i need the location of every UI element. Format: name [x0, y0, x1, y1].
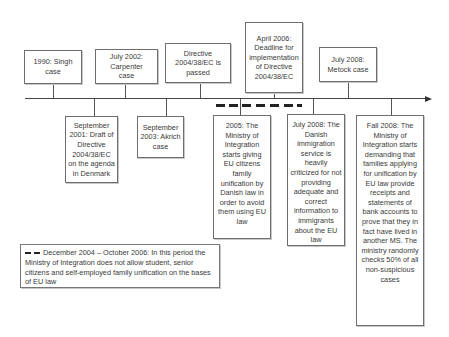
connector	[200, 82, 201, 98]
connector	[166, 99, 167, 116]
period-dash	[229, 104, 238, 107]
connector	[94, 99, 95, 116]
connector	[125, 83, 126, 98]
event-label: Fall 2008: The Ministry of Integration s…	[359, 121, 421, 284]
legend-text: December 2004 – October 2006: In this pe…	[25, 248, 211, 286]
event-label: Directive 2004/38/EC is passed	[168, 49, 228, 78]
dash-key-icon	[34, 252, 40, 254]
event-ministry-2005: 2005: The Ministry of Integration starts…	[213, 115, 271, 239]
connector	[240, 99, 241, 115]
event-label: July 2008: Metock case	[322, 55, 374, 74]
event-label: 2005: The Ministry of Integration starts…	[216, 121, 268, 227]
period-dash	[216, 104, 225, 107]
event-label: July 2002: Carpenter case	[98, 52, 155, 81]
event-label: April 2006: Deadline for implementation …	[248, 34, 300, 82]
period-legend: December 2004 – October 2006: In this pe…	[20, 244, 220, 288]
connector	[391, 99, 392, 115]
event-label: 1990: Singh case	[27, 57, 79, 76]
connector	[53, 83, 54, 98]
event-draft: September 2001: Draft of Directive 2004/…	[65, 116, 118, 183]
dash-key-icon	[25, 252, 31, 254]
period-dash	[297, 104, 302, 107]
connector	[348, 81, 349, 98]
period-dash	[284, 104, 293, 107]
period-dash	[242, 104, 251, 107]
event-label: September 2001: Draft of Directive 2004/…	[68, 121, 115, 179]
timeline-axis	[25, 98, 427, 99]
arrowhead-icon	[425, 96, 432, 102]
period-dash	[270, 104, 279, 107]
event-akrich: September 2003: Akrich case	[137, 116, 184, 158]
event-deadline: April 2006: Deadline for implementation …	[245, 22, 303, 93]
event-fall-2008: Fall 2008: The Ministry of Integration s…	[356, 115, 424, 326]
event-label: July 2008: The Danish immigration servic…	[290, 120, 342, 245]
event-carpenter: July 2002: Carpenter case	[95, 49, 158, 84]
event-metock: July 2008: Metock case	[319, 47, 377, 82]
event-singh: 1990: Singh case	[24, 50, 82, 84]
event-directive-passed: Directive 2004/38/EC is passed	[165, 43, 231, 83]
event-criticized: July 2008: The Danish immigration servic…	[287, 114, 345, 246]
period-dash	[256, 104, 265, 107]
connector	[313, 99, 314, 114]
event-label: September 2003: Akrich case	[140, 123, 181, 152]
